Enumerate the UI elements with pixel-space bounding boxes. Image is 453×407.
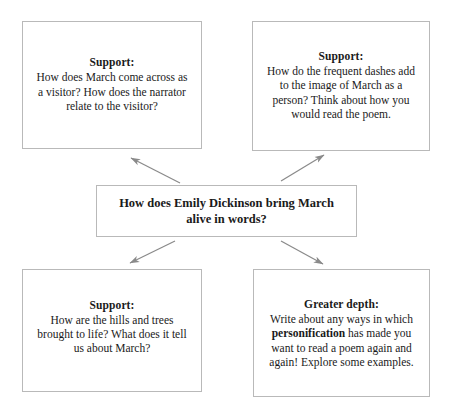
support-node-top-right-heading: Support: [319,49,364,63]
central-question-text: How does Emily Dickinson bring March ali… [97,195,356,228]
support-node-top-right: Support: How do the frequent dashes add … [252,21,430,151]
support-node-top-left-heading: Support: [90,55,135,69]
support-node-top-right-body: How do the frequent dashes add to the im… [257,64,425,120]
arrow-center-to-bottom-right [281,241,323,264]
greater-depth-node-heading: Greater depth: [304,297,379,311]
arrow-center-to-top-right [281,155,324,181]
central-question-node: How does Emily Dickinson bring March ali… [96,185,357,237]
arrow-center-to-bottom-left [130,241,175,263]
greater-depth-node: Greater depth: Write about any ways in w… [253,269,430,397]
greater-depth-body-emphasis: personification [272,327,345,339]
support-node-bottom-left-heading: Support: [90,298,135,312]
support-node-bottom-left-body: How are the hills and trees brought to l… [27,313,197,355]
support-node-top-left-body: How does March come across as a visitor?… [27,70,197,112]
support-node-bottom-left: Support: How are the hills and trees bro… [22,269,202,392]
greater-depth-body-before: Write about any ways in which [270,313,413,325]
support-node-top-left: Support: How does March come across as a… [22,21,202,149]
arrow-center-to-top-left [131,158,180,183]
concept-map-diagram: Support: How does March come across as a… [0,0,453,407]
greater-depth-node-body: Write about any ways in which personific… [258,312,425,368]
